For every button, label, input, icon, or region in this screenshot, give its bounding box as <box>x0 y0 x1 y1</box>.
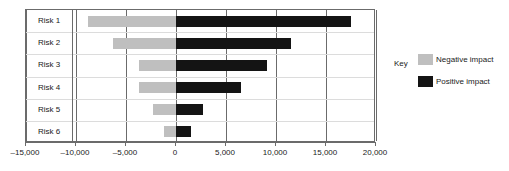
tornado-chart-figure: Risk 1Risk 2Risk 3Risk 4Risk 5Risk 6 Key… <box>0 0 509 171</box>
x-tick-0 <box>175 142 176 146</box>
bar-positive-5 <box>176 104 203 115</box>
x-tick--15000 <box>25 142 26 146</box>
x-tick-label-0: 0 <box>173 148 177 158</box>
legend-swatch-neg <box>418 54 433 65</box>
category-label-column: Risk 1Risk 2Risk 3Risk 4Risk 5Risk 6 <box>26 10 73 141</box>
gridline-20000 <box>376 10 377 141</box>
x-tick-20000 <box>375 142 376 146</box>
bar-positive-4 <box>176 82 241 93</box>
x-axis-line <box>25 142 375 143</box>
bar-positive-1 <box>176 16 351 27</box>
bar-negative-3 <box>139 60 176 71</box>
x-tick--5000 <box>125 142 126 146</box>
x-tick-label-20000: 20,000 <box>363 148 387 158</box>
category-label-3: Risk 3 <box>26 60 72 70</box>
x-tick-label--15000: –15,000 <box>11 148 40 158</box>
row-separator <box>26 32 374 33</box>
bar-positive-3 <box>176 60 267 71</box>
legend-label-2: Positive impact <box>436 77 490 87</box>
legend: Key Negative impactPositive impact <box>394 54 506 98</box>
x-tick-label--10000: –10,000 <box>61 148 90 158</box>
bar-negative-4 <box>139 82 176 93</box>
legend-title: Key <box>394 59 408 69</box>
category-label-6: Risk 6 <box>26 127 72 137</box>
row-separator <box>26 121 374 122</box>
bar-negative-2 <box>113 38 176 49</box>
row-separator <box>26 99 374 100</box>
x-tick-label-5000: 5,000 <box>215 148 235 158</box>
category-label-2: Risk 2 <box>26 38 72 48</box>
row-separator <box>26 77 374 78</box>
plot-area: Risk 1Risk 2Risk 3Risk 4Risk 5Risk 6 <box>25 9 375 142</box>
category-label-5: Risk 5 <box>26 105 72 115</box>
bar-negative-5 <box>153 104 176 115</box>
x-tick-label--5000: –5,000 <box>113 148 137 158</box>
bar-negative-6 <box>164 126 176 137</box>
x-tick-10000 <box>275 142 276 146</box>
x-tick-label-15000: 15,000 <box>313 148 337 158</box>
x-tick-5000 <box>225 142 226 146</box>
x-tick-label-10000: 10,000 <box>263 148 287 158</box>
legend-label-1: Negative impact <box>436 55 493 65</box>
bar-negative-1 <box>88 16 176 27</box>
bar-positive-6 <box>176 126 191 137</box>
bar-positive-2 <box>176 38 291 49</box>
legend-swatch-pos <box>418 76 433 87</box>
x-tick--10000 <box>75 142 76 146</box>
category-label-1: Risk 1 <box>26 16 72 26</box>
x-tick-15000 <box>325 142 326 146</box>
row-separator <box>26 54 374 55</box>
category-label-4: Risk 4 <box>26 83 72 93</box>
